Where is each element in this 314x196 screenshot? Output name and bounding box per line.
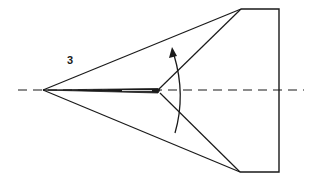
lower-outer-edge (43, 90, 240, 172)
lower-inner-edge (160, 93, 240, 172)
arrowhead-icon (169, 47, 177, 58)
folding-diagram (0, 0, 314, 196)
upper-inner-edge (159, 9, 241, 89)
step-number-label: 3 (67, 55, 73, 66)
upper-outer-edge (43, 9, 241, 90)
fold-arrow-icon (174, 55, 180, 133)
